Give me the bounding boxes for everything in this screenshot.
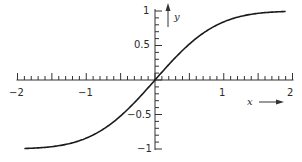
x-tick-label-neg2: −2: [9, 87, 24, 98]
x-tick-label-1: 1: [219, 87, 225, 98]
x-tick-label-2: 2: [287, 87, 293, 98]
y-tick-label-1: 1: [143, 5, 149, 16]
erf-chart: −2 −1 1 2 1 0.5 −0.5 −1 y x: [0, 0, 302, 162]
y-tick-label-0-5: 0.5: [134, 39, 150, 50]
x-axis-label: x: [247, 96, 253, 107]
y-tick-label-neg0-5: −0.5: [127, 109, 151, 120]
y-tick-label-neg1: −1: [137, 143, 152, 154]
y-arrow-icon: [166, 3, 171, 27]
y-axis-label: y: [173, 11, 180, 22]
x-arrow-icon: [259, 100, 284, 105]
x-tick-label-neg1: −1: [78, 87, 93, 98]
